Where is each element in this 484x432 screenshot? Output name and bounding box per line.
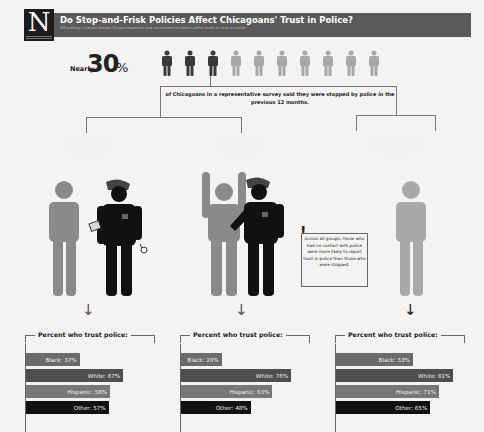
branch-line	[356, 115, 357, 131]
logo: N	[24, 9, 54, 41]
civilian-no-contact-icon	[391, 178, 431, 303]
group-label-text: No contact with police	[372, 140, 422, 158]
person-icon	[253, 50, 265, 76]
branch-line	[86, 117, 87, 133]
panel-title: Percent who trust police:	[35, 331, 131, 338]
panel-title: Percent who trust police:	[345, 331, 441, 338]
bar-white: White: 67%	[26, 369, 123, 382]
group-label-no-contact: No contact with police	[357, 137, 436, 160]
bar-white: White: 81%	[336, 369, 453, 382]
bar-hispanic: Hispanic: 63%	[181, 385, 272, 398]
bar-hispanic: Hispanic: 58%	[26, 385, 110, 398]
civilian-and-officer-icon	[40, 178, 150, 303]
note-text: Across all groups, those who had no cont…	[303, 236, 366, 267]
page-title: Do Stop-and-Frisk Policies Affect Chicag…	[60, 15, 353, 25]
down-arrow-icon: ↓	[235, 303, 248, 318]
bar-other: Other: 65%	[336, 401, 430, 414]
bar-hispanic: Hispanic: 71%	[336, 385, 439, 398]
group-label-text: Stopped for a violation	[63, 140, 113, 158]
person-icon-stopped	[207, 50, 219, 76]
person-icon	[276, 50, 288, 76]
group-label-stopped-frisked: Stopped and frisked	[201, 137, 280, 160]
person-icon-stopped	[184, 50, 196, 76]
person-icon	[230, 50, 242, 76]
person-icon	[368, 50, 380, 76]
connector-line	[160, 86, 396, 87]
person-icon	[345, 50, 357, 76]
branch-line	[356, 115, 436, 116]
page-subtitle: IPR political scientist Wesley Skogan ex…	[60, 26, 245, 30]
down-arrow-icon: ↓	[82, 303, 95, 318]
group-label-stopped-violation: Stopped for a violation	[48, 137, 127, 160]
note-callout: Across all groups, those who had no cont…	[301, 233, 368, 287]
bar-black: Black: 37%	[26, 353, 80, 366]
person-icon-stopped	[161, 50, 173, 76]
person-icon	[322, 50, 334, 76]
down-arrow-icon: ↓	[404, 303, 417, 318]
connector-line	[210, 76, 211, 86]
person-icon	[299, 50, 311, 76]
logo-letter: N	[28, 7, 51, 37]
stat-description: of Chicagoans in a representative survey…	[160, 90, 400, 106]
frisk-illustration-icon	[200, 172, 290, 302]
bar-black: Black: 28%	[181, 353, 222, 366]
group-label-text: Stopped and frisked	[216, 140, 266, 158]
branch-line	[241, 117, 242, 133]
bar-other: Other: 57%	[26, 401, 109, 414]
branch-line	[435, 115, 436, 131]
panel-title: Percent who trust police:	[190, 331, 286, 338]
bar-black: Black: 53%	[336, 353, 413, 366]
people-figure-row	[161, 50, 380, 76]
stat-value: 30	[87, 50, 118, 78]
bar-other: Other: 48%	[181, 401, 251, 414]
stat-unit: %	[116, 60, 128, 75]
branch-line	[86, 117, 242, 118]
bar-white: White: 76%	[181, 369, 291, 382]
logo-wordmark	[26, 36, 52, 39]
